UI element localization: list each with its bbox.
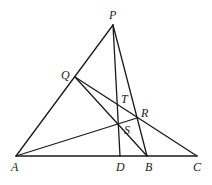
geometry-diagram: PQTRSADBC [0, 0, 212, 185]
segment-pd [113, 25, 120, 156]
point-label-p: P [108, 8, 117, 22]
segment-ap [16, 25, 113, 156]
segments-group [16, 25, 197, 156]
point-label-b: B [145, 160, 153, 174]
point-label-c: C [193, 160, 202, 174]
point-label-a: A [10, 160, 19, 174]
point-label-d: D [115, 160, 125, 174]
segment-pb [113, 25, 147, 156]
point-label-t: T [121, 92, 129, 106]
point-label-s: S [124, 123, 130, 137]
point-label-q: Q [61, 68, 70, 82]
point-label-r: R [140, 106, 149, 120]
